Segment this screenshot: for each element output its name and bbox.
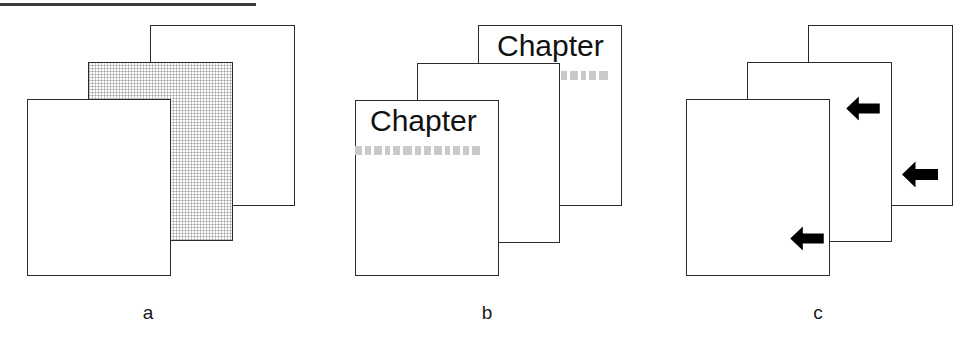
text-block [472, 146, 480, 155]
text-block [445, 146, 450, 155]
text-block [581, 71, 586, 80]
panel-caption-a: a [143, 303, 154, 322]
text-block [589, 71, 596, 80]
text-block [355, 146, 362, 155]
text-block [365, 146, 371, 155]
page-sheet-a-front [27, 99, 171, 276]
simulated-text-line [551, 71, 623, 80]
text-block [415, 146, 421, 155]
text-block [403, 146, 412, 155]
text-block [385, 146, 390, 155]
panel-caption-b: b [482, 303, 493, 322]
text-block [393, 146, 400, 155]
panel-caption-c: c [813, 303, 823, 322]
left-arrow-icon [790, 225, 824, 252]
text-block [599, 71, 608, 80]
chapter-heading: Chapter [497, 31, 604, 61]
simulated-text-line [355, 146, 499, 155]
text-block [434, 146, 442, 155]
top-rule-divider [0, 3, 256, 6]
text-block [453, 146, 460, 155]
left-arrow-icon [902, 160, 938, 189]
text-block [570, 71, 578, 80]
left-arrow-icon [846, 95, 880, 122]
text-block [561, 71, 567, 80]
figure-canvas: aChapterChapterbc [0, 0, 974, 345]
chapter-heading: Chapter [370, 106, 477, 136]
text-block [424, 146, 431, 155]
text-block [374, 146, 382, 155]
text-block [463, 146, 469, 155]
